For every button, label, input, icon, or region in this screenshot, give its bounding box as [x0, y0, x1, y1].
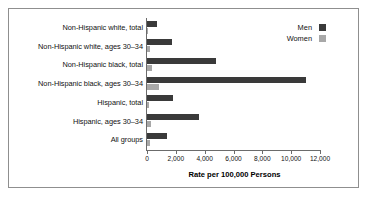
- x-tick: [234, 151, 235, 154]
- category-label: Non-Hispanic black, ages 30–34: [10, 75, 143, 92]
- x-tick: [291, 151, 292, 154]
- category-label: All groups: [10, 131, 143, 148]
- bar-row: Hispanic, total: [0, 94, 369, 111]
- bar-group: [147, 75, 347, 92]
- x-tick-label: 0: [145, 155, 149, 162]
- legend-label-women: Women: [287, 33, 312, 44]
- bar-men: [147, 114, 199, 120]
- bar-women: [147, 28, 148, 34]
- chart-figure: Non-Hispanic white, totalNon-Hispanic wh…: [0, 0, 369, 198]
- x-tick-label: 4,000: [196, 155, 213, 162]
- bar-group: [147, 113, 347, 130]
- category-label: Non-Hispanic white, total: [10, 19, 143, 36]
- bar-men: [147, 39, 172, 45]
- x-tick-label: 8,000: [254, 155, 271, 162]
- x-tick-label: 2,000: [168, 155, 185, 162]
- bar-men: [147, 133, 167, 139]
- bar-row: All groups: [0, 131, 369, 148]
- bar-group: [147, 56, 347, 73]
- x-tick: [320, 151, 321, 154]
- x-axis-title: Rate per 100,000 Persons: [147, 170, 322, 179]
- bar-women: [147, 102, 149, 108]
- x-tick: [262, 151, 263, 154]
- bar-men: [147, 77, 306, 83]
- legend-label-men: Men: [298, 22, 312, 33]
- bar-women: [147, 121, 151, 127]
- y-axis-line: [146, 18, 147, 150]
- legend-swatch-women: [319, 35, 326, 42]
- bar-group: [147, 131, 347, 148]
- bar-group: [147, 94, 347, 111]
- x-tick: [176, 151, 177, 154]
- category-label: Hispanic, ages 30–34: [10, 113, 143, 130]
- bar-women: [147, 46, 150, 52]
- bar-women: [147, 84, 159, 90]
- x-tick: [205, 151, 206, 154]
- bar-men: [147, 21, 157, 27]
- x-tick-label: 10,000: [281, 155, 301, 162]
- plot-area: Non-Hispanic white, totalNon-Hispanic wh…: [0, 0, 369, 198]
- legend-item-women: Women: [262, 33, 326, 44]
- category-label: Non-Hispanic white, ages 30–34: [10, 38, 143, 55]
- chart-legend: Men Women: [262, 22, 326, 44]
- x-tick-label: 6,000: [225, 155, 242, 162]
- bar-men: [147, 58, 216, 64]
- bar-row: Hispanic, ages 30–34: [0, 113, 369, 130]
- x-tick-label: 12,000: [310, 155, 330, 162]
- legend-item-men: Men: [262, 22, 326, 33]
- x-tick: [147, 151, 148, 154]
- category-label: Hispanic, total: [10, 94, 143, 111]
- category-label: Non-Hispanic black, total: [10, 56, 143, 73]
- bar-women: [147, 140, 150, 146]
- legend-swatch-men: [319, 24, 326, 31]
- bar-row: Non-Hispanic black, ages 30–34: [0, 75, 369, 92]
- bar-women: [147, 65, 152, 71]
- bar-men: [147, 95, 173, 101]
- bar-row: Non-Hispanic black, total: [0, 56, 369, 73]
